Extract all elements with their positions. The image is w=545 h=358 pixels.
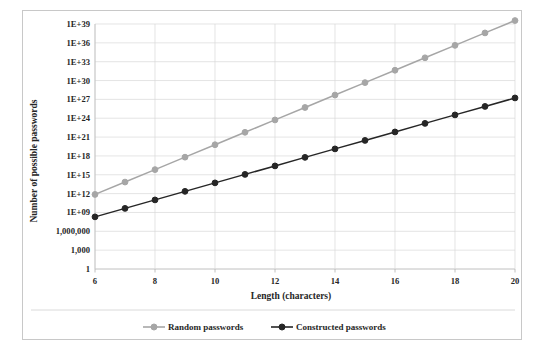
y-tick-label: 1E+24 (66, 113, 90, 123)
data-point (482, 104, 488, 110)
data-point (512, 95, 518, 101)
y-tick-label: 1E+15 (66, 170, 90, 180)
legend-label-0: Random passwords (168, 322, 244, 332)
data-point (332, 146, 338, 152)
y-tick-label: 1E+30 (66, 76, 90, 86)
axes-group (95, 24, 515, 273)
data-point (92, 214, 98, 220)
data-point (362, 80, 368, 86)
y-tick-label: 1E+09 (66, 207, 90, 217)
data-point (512, 18, 518, 24)
data-point (422, 120, 428, 126)
x-tick-label: 14 (331, 276, 340, 286)
data-point (272, 117, 278, 123)
data-point (182, 154, 188, 160)
chart-frame: 11,0001,000,0001E+091E+121E+151E+181E+21… (22, 10, 522, 340)
x-tick-labels-group: 68101214161820 (93, 276, 519, 286)
y-axis-title: Number of possible passwords (29, 99, 39, 222)
data-point (182, 188, 188, 194)
y-tick-label: 1 (86, 264, 90, 274)
y-tick-label: 1E+21 (66, 132, 90, 142)
x-axis-title: Length (characters) (251, 291, 331, 302)
legend-marker-dot-0 (151, 324, 157, 330)
chart-canvas: 11,0001,000,0001E+091E+121E+151E+181E+21… (23, 11, 521, 339)
series-group (92, 18, 518, 220)
data-point (212, 180, 218, 186)
y-tick-label: 1,000,000 (56, 226, 90, 236)
legend-label-1: Constructed passwords (296, 322, 386, 332)
password-strength-line-chart: 11,0001,000,0001E+091E+121E+151E+181E+21… (23, 11, 523, 341)
data-point (92, 192, 98, 198)
data-point (392, 67, 398, 73)
data-point (422, 55, 428, 61)
data-point (302, 105, 308, 111)
y-tick-label: 1E+27 (66, 94, 90, 104)
data-point (122, 179, 128, 185)
x-tick-label: 20 (511, 276, 520, 286)
data-point (122, 205, 128, 211)
data-point (482, 30, 488, 36)
data-point (152, 167, 158, 173)
x-tick-label: 18 (451, 276, 460, 286)
x-tick-label: 12 (271, 276, 280, 286)
data-point (242, 129, 248, 135)
y-tick-label: 1E+33 (66, 57, 90, 67)
y-tick-label: 1E+12 (66, 189, 90, 199)
y-tick-labels-group: 11,0001,000,0001E+091E+121E+151E+181E+21… (56, 19, 91, 274)
data-point (302, 154, 308, 160)
x-tick-label: 16 (391, 276, 400, 286)
x-tick-label: 10 (211, 276, 220, 286)
data-point (332, 92, 338, 98)
legend-marker-dot-1 (279, 324, 285, 330)
x-tick-label: 8 (153, 276, 158, 286)
data-point (152, 197, 158, 203)
y-tick-label: 1E+18 (66, 151, 90, 161)
data-point (242, 171, 248, 177)
data-point (212, 142, 218, 148)
y-tick-label: 1E+39 (66, 19, 90, 29)
gridlines-group (95, 24, 515, 250)
data-point (272, 163, 278, 169)
data-point (362, 138, 368, 144)
y-tick-label: 1,000 (71, 245, 90, 255)
x-tick-label: 6 (93, 276, 98, 286)
data-point (452, 112, 458, 118)
legend-group: Random passwordsConstructed passwords (143, 322, 386, 332)
y-tick-label: 1E+36 (66, 38, 90, 48)
data-point (452, 42, 458, 48)
data-point (392, 129, 398, 135)
